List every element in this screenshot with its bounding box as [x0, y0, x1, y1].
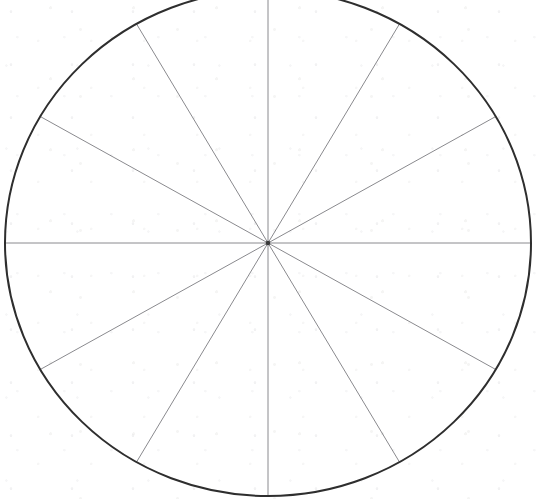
sector-divider-line-5: [268, 243, 400, 462]
sector-divider-line-4: [268, 243, 496, 370]
sector-divider-line-2: [268, 117, 496, 244]
sector-divider-line-1: [268, 24, 400, 243]
pie-chart-figure: Blank pie chart template with twelve equ…: [0, 0, 544, 499]
pie-center-point-group: [266, 241, 271, 246]
sector-divider-group: [5, 0, 531, 496]
pie-chart-canvas: Blank pie chart template with twelve equ…: [0, 0, 544, 499]
sector-divider-line-11: [137, 24, 269, 243]
sector-divider-line-7: [137, 243, 269, 462]
sector-divider-line-10: [40, 117, 268, 244]
sector-divider-line-8: [40, 243, 268, 370]
pie-center-dot: [266, 241, 271, 246]
